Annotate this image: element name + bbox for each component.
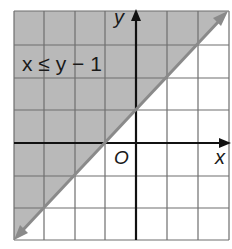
origin-label: O — [114, 147, 129, 168]
x-axis-label: x — [214, 146, 226, 168]
inequality-label: x ≤ y − 1 — [22, 52, 102, 75]
y-axis-label: y — [112, 6, 125, 28]
inequality-graph: x ≤ y − 1 y x O — [0, 0, 232, 249]
